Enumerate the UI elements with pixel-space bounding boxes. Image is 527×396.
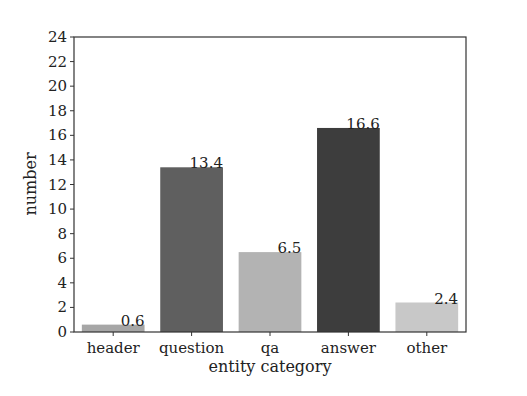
y-tick-label: 20	[48, 77, 67, 95]
y-tick-label: 8	[57, 225, 67, 243]
data-label-qa: 6.5	[278, 239, 302, 257]
y-tick-label: 4	[57, 274, 67, 292]
y-tick-label: 12	[48, 176, 67, 194]
y-axis: 024681012141618202224	[48, 28, 74, 341]
bar-answer	[317, 128, 380, 332]
data-label-question: 13.4	[190, 154, 223, 172]
y-tick-label: 0	[57, 323, 67, 341]
y-tick-label: 22	[48, 53, 67, 71]
y-tick-label: 6	[57, 249, 67, 267]
x-tick-label-qa: qa	[261, 339, 280, 357]
data-label-other: 2.4	[434, 290, 458, 308]
bar-question	[160, 167, 223, 332]
x-axis: headerquestionqaanswerother	[87, 332, 448, 357]
x-tick-label-other: other	[406, 339, 448, 357]
y-tick-label: 16	[48, 126, 67, 144]
y-tick-label: 24	[48, 28, 67, 46]
bar-qa	[239, 252, 302, 332]
y-tick-label: 14	[48, 151, 67, 169]
bar-chart: 0.613.46.516.62.4 024681012141618202224 …	[0, 0, 527, 396]
y-tick-label: 2	[57, 298, 67, 316]
data-label-answer: 16.6	[346, 115, 379, 133]
x-tick-label-answer: answer	[321, 339, 377, 357]
x-tick-label-header: header	[87, 339, 141, 357]
x-axis-label: entity category	[209, 357, 332, 376]
x-tick-label-question: question	[159, 339, 225, 357]
y-axis-label: number	[21, 152, 40, 215]
y-tick-label: 18	[48, 102, 67, 120]
data-label-header: 0.6	[121, 312, 145, 330]
bars	[82, 128, 458, 332]
y-tick-label: 10	[48, 200, 67, 218]
